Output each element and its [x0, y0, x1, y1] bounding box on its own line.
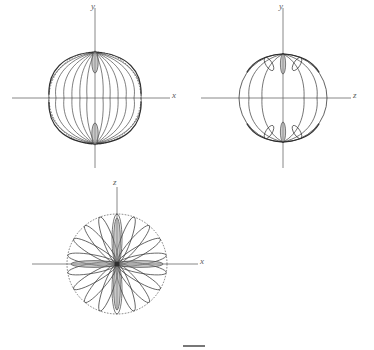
axis-petal-down — [114, 264, 121, 310]
radiation-pattern-figure: y x — [0, 0, 374, 350]
axis-label-x: x — [200, 257, 204, 266]
panel-xy-plane: y x — [0, 0, 187, 175]
axis-label-y: y — [91, 2, 95, 11]
axis-label-y: y — [279, 2, 283, 11]
pattern-center-zx — [114, 261, 119, 266]
axis-petal-up — [114, 218, 121, 264]
axes-zy — [201, 8, 351, 168]
panel-zy-plot — [187, 0, 374, 175]
axis-petal-left — [71, 261, 117, 268]
axis-label-z: z — [353, 91, 357, 100]
axis-label-x: x — [172, 91, 176, 100]
origin-dot — [114, 261, 119, 266]
axis-petal-right — [117, 261, 163, 268]
caption-rule — [183, 345, 205, 347]
main-lobe-bottom — [92, 123, 98, 145]
main-lobe-top — [280, 54, 285, 74]
panel-zx-plot — [0, 175, 230, 350]
panel-zx-plane: z x — [0, 175, 230, 350]
panel-xy-plot — [0, 0, 187, 175]
axis-label-z: z — [113, 178, 117, 187]
main-lobe-bottom — [280, 122, 285, 142]
panel-zy-plane: y z — [187, 0, 374, 175]
main-lobe-top — [92, 51, 98, 73]
